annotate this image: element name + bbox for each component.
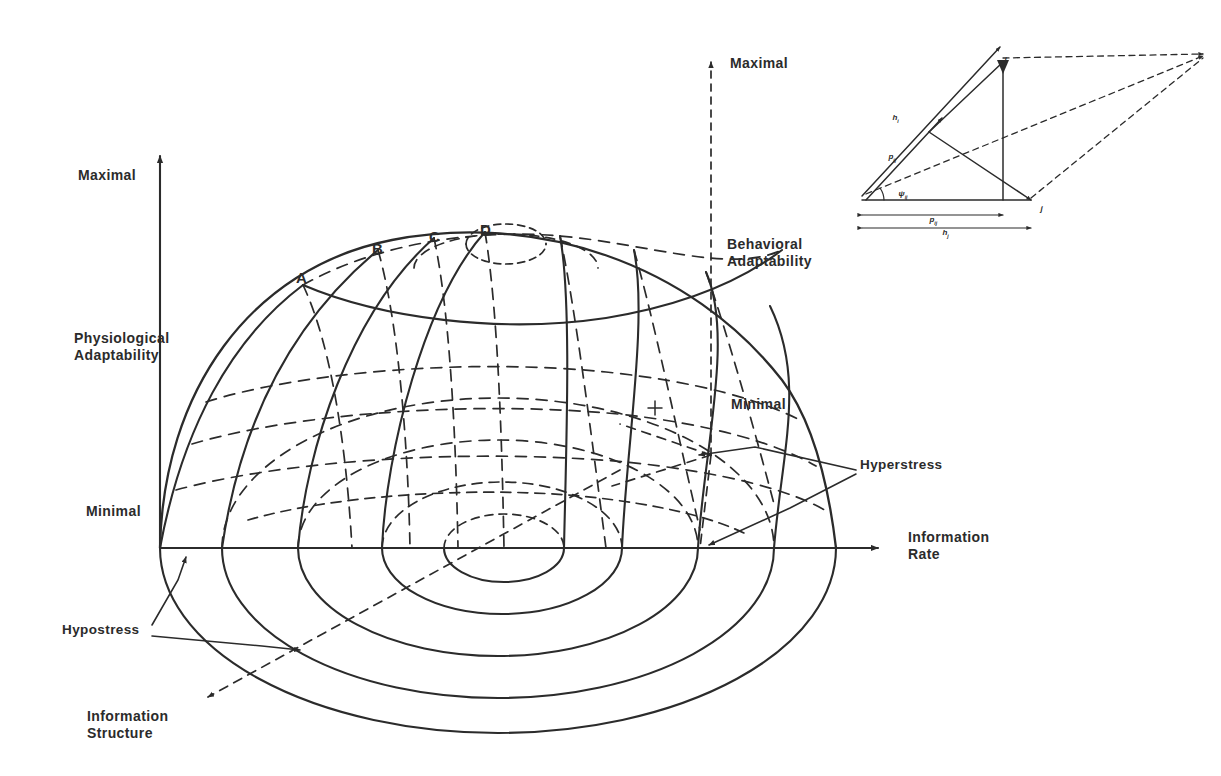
annotation-hypostress: Hypostress bbox=[62, 622, 140, 638]
latitude-dashed-5 bbox=[248, 492, 746, 534]
meridian-front-2 bbox=[222, 250, 378, 548]
inset-dashed-top bbox=[1003, 54, 1203, 58]
meridian-front-8 bbox=[770, 306, 789, 548]
inset-label-p-ij: pij bbox=[884, 143, 896, 163]
diagram-svg bbox=[0, 0, 1221, 776]
meridian-back-4 bbox=[485, 232, 504, 548]
ground-ellipse-outer bbox=[160, 548, 836, 733]
cap-ellipse-front bbox=[466, 244, 546, 264]
ground-ellipse-2 bbox=[222, 548, 774, 698]
axis-label-behavioral-adaptability: Behavioral Adaptability bbox=[727, 236, 812, 270]
crest-point-label-c: C bbox=[429, 228, 440, 246]
crest-point-label-a: A bbox=[296, 269, 307, 287]
inset-dashed-from-j bbox=[1031, 58, 1203, 198]
inset-label-node-j: j bbox=[1036, 195, 1043, 213]
annotation-hyperstress: Hyperstress bbox=[860, 457, 942, 473]
leader-hyperstress-upper bbox=[699, 447, 856, 470]
meridian-front-3 bbox=[298, 238, 434, 548]
axis-label-behavioral-minimal: Minimal bbox=[731, 396, 786, 413]
inset-label-node-i: i bbox=[1000, 46, 1007, 64]
latitude-solid-1 bbox=[303, 250, 782, 324]
axis-label-behavioral-maximal: Maximal bbox=[730, 55, 788, 72]
axis-label-physiological-minimal: Minimal bbox=[86, 503, 141, 520]
inset-vector-geometry bbox=[862, 47, 1203, 228]
inset-label-dim-h-j: hj bbox=[938, 219, 949, 239]
inset-label-h-i: hi bbox=[888, 104, 899, 124]
ground-ellipse-3 bbox=[298, 548, 698, 656]
inset-arrow-h-i bbox=[862, 47, 1000, 196]
meridian-front-4 bbox=[382, 232, 485, 548]
inset-angle-arc bbox=[880, 188, 884, 200]
latitude-dashed-3 bbox=[192, 409, 816, 466]
meridian-back-3 bbox=[434, 238, 458, 548]
crest-point-label-d: D bbox=[480, 221, 491, 239]
inset-dashed-ray-1 bbox=[866, 56, 1203, 194]
axis-label-physiological-maximal: Maximal bbox=[78, 167, 136, 184]
axis-label-information-rate: Information Rate bbox=[908, 529, 989, 563]
cap-ellipse-2-back bbox=[414, 234, 598, 268]
inset-edge-to-j bbox=[929, 132, 1031, 200]
inset-label-dim-p-ij: pij bbox=[925, 206, 937, 226]
figure-canvas: Maximal Physiological Adaptability Minim… bbox=[0, 0, 1221, 776]
ground-ellipse-5 bbox=[444, 548, 564, 582]
crest-point-label-b: B bbox=[372, 240, 383, 258]
inset-label-psi-ij: ψij bbox=[894, 180, 908, 200]
meridian-back-6 bbox=[634, 250, 700, 530]
axis-label-physiological-adaptability: Physiological Adaptability bbox=[74, 330, 169, 364]
inset-edge-to-apex bbox=[929, 62, 1003, 132]
axis-label-information-structure: Information Structure bbox=[87, 708, 168, 742]
meridian-back-2 bbox=[378, 250, 410, 548]
